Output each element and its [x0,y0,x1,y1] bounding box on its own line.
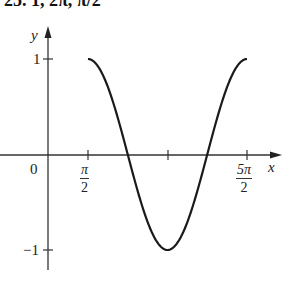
x-tick-label-pi-half: π 2 [80,163,89,195]
x-tick-label-5pi-half: 5π 2 [236,163,252,195]
x-axis-arrow-icon [270,152,282,159]
x-axis-label: x [268,160,275,175]
y-axis-arrow-icon [45,26,52,38]
origin-label: 0 [30,162,38,177]
y-tick-label-1: 1 [33,52,41,67]
cosine-graph [0,0,289,296]
y-axis-label: y [31,28,38,43]
y-tick-label-neg1: −1 [23,243,39,258]
